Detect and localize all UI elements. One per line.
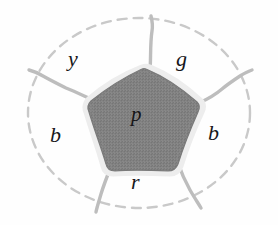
edge-top-to-boundary [150, 16, 152, 71]
planar-map-figure: y g b b r p [0, 0, 278, 225]
central-region-label-p: p [131, 104, 142, 125]
edge-upper-left-to-boundary [29, 70, 93, 100]
region-label-g: g [176, 48, 187, 70]
region-label-r: r [131, 171, 140, 193]
edge-upper-right-to-boundary [199, 70, 252, 103]
region-label-b-right: b [208, 122, 219, 144]
region-label-y: y [68, 48, 78, 70]
region-label-b-left: b [50, 124, 61, 146]
